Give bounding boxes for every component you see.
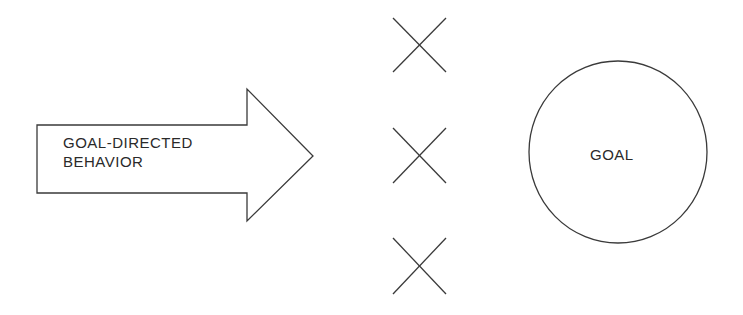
barrier-x-mark-3 xyxy=(393,238,446,294)
arrow-label-line1: GOAL-DIRECTED xyxy=(63,134,193,152)
barrier-x-mark-1 xyxy=(393,18,446,72)
barrier-x-mark-2 xyxy=(393,128,446,183)
arrow-label-line2: BEHAVIOR xyxy=(63,153,143,171)
goal-label: GOAL xyxy=(590,146,634,164)
